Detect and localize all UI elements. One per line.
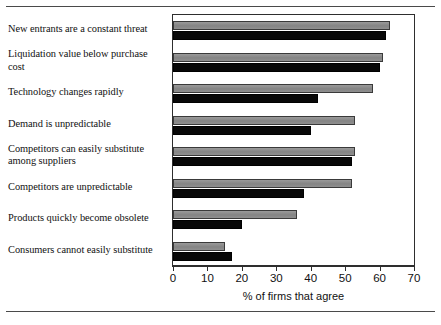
figure-page: New entrants are a constant threatLiquid…	[0, 0, 441, 325]
plot-area: Innovators Non-Innovators	[172, 14, 415, 266]
bar-non-innovators	[173, 126, 311, 135]
category-label-column: New entrants are a constant threatLiquid…	[8, 14, 172, 266]
category-label: New entrants are a constant threat	[8, 23, 172, 35]
category-label: Liquidation value below purchasecost	[8, 48, 172, 73]
category-label-line: Competitors are unpredictable	[8, 181, 172, 193]
x-axis-title: % of firms that agree	[172, 290, 415, 302]
x-axis-tick-label: 40	[294, 272, 328, 284]
category-label-line: among suppliers	[8, 155, 172, 167]
bar-innovators	[173, 116, 355, 125]
category-label: Competitors can easily substituteamong s…	[8, 143, 172, 168]
bar-non-innovators	[173, 189, 304, 198]
bar-innovators	[173, 147, 355, 156]
bar-non-innovators	[173, 63, 380, 72]
x-axis-tick	[345, 266, 346, 271]
bar-innovators	[173, 179, 352, 188]
x-axis-tick	[207, 266, 208, 271]
bar-non-innovators	[173, 31, 386, 40]
category-label: Technology changes rapidly	[8, 86, 172, 98]
bar-innovators	[173, 21, 390, 30]
bar-innovators	[173, 84, 373, 93]
bar-innovators	[173, 210, 297, 219]
category-label-line: Technology changes rapidly	[8, 86, 172, 98]
category-label: Competitors are unpredictable	[8, 181, 172, 193]
x-axis-tick	[276, 266, 277, 271]
category-label-line: Consumers cannot easily substitute	[8, 244, 172, 256]
bar-chart: New entrants are a constant threatLiquid…	[0, 14, 441, 306]
x-axis-tick	[173, 266, 174, 271]
x-axis-tick-label: 50	[328, 272, 362, 284]
figure-top-rule	[6, 6, 435, 7]
bar-non-innovators	[173, 252, 232, 261]
bars-layer	[173, 15, 414, 265]
x-axis-tick-label: 10	[190, 272, 224, 284]
bar-innovators	[173, 242, 225, 251]
x-axis-tick	[311, 266, 312, 271]
category-label-line: New entrants are a constant threat	[8, 23, 172, 35]
x-axis-tick-label: 20	[225, 272, 259, 284]
bar-non-innovators	[173, 220, 242, 229]
category-label-line: Products quickly become obsolete	[8, 212, 172, 224]
x-axis-tick-label: 30	[259, 272, 293, 284]
category-label: Products quickly become obsolete	[8, 212, 172, 224]
figure-bottom-rule	[6, 311, 435, 312]
x-axis-tick-label: 70	[397, 272, 431, 284]
x-axis-tick-label: 0	[156, 272, 190, 284]
bar-non-innovators	[173, 157, 352, 166]
category-label-line: Liquidation value below purchase	[8, 48, 172, 60]
bar-innovators	[173, 53, 383, 62]
x-axis-tick	[242, 266, 243, 271]
x-axis-tick-label: 60	[363, 272, 397, 284]
category-label: Consumers cannot easily substitute	[8, 244, 172, 256]
category-label-line: cost	[8, 61, 172, 73]
x-axis-line	[172, 266, 415, 267]
x-axis-tick	[414, 266, 415, 271]
category-label: Demand is unpredictable	[8, 118, 172, 130]
category-label-line: Demand is unpredictable	[8, 118, 172, 130]
category-label-line: Competitors can easily substitute	[8, 143, 172, 155]
bar-non-innovators	[173, 94, 318, 103]
x-axis-tick	[380, 266, 381, 271]
